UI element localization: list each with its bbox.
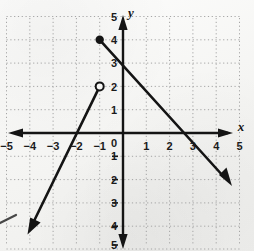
y-tick--3: 3 (111, 197, 117, 209)
y-tick--1: 1 (111, 150, 117, 162)
x-tick-3: 3 (190, 140, 196, 152)
closed-endpoint-marker (96, 36, 104, 44)
y-tick--5: 5 (111, 239, 117, 251)
stray-pencil-mark (0, 215, 16, 223)
x-axis-left-arrow-icon (8, 128, 23, 137)
ray-right-segment (100, 40, 224, 177)
y-axis-label: y (126, 5, 134, 20)
y-axis-up-arrow-icon (118, 15, 127, 30)
y-tick-1: 1 (111, 104, 117, 116)
y-tick-4: 4 (111, 34, 118, 46)
y-tick--4: 4 (111, 220, 118, 232)
ray-left-segment (35, 86, 100, 220)
coordinate-plane: −5 −4 −3 −2 −1 1 2 3 4 5 0 1 2 3 4 5 1 2… (0, 0, 254, 251)
x-tick--1: −1 (93, 140, 106, 152)
x-tick-2: 2 (167, 140, 173, 152)
x-tick-5: 5 (236, 140, 242, 152)
x-tick-labels: −5 −4 −3 −2 −1 1 2 3 4 5 (0, 140, 242, 152)
series-ray-right-decreasing (100, 40, 232, 186)
y-tick-5: 5 (111, 11, 117, 23)
y-tick-2: 2 (111, 81, 117, 93)
x-tick-1: 1 (143, 140, 149, 152)
x-tick--5: −5 (0, 140, 13, 152)
y-axis-down-arrow-icon (118, 234, 127, 249)
x-tick--4: −4 (24, 140, 37, 152)
x-tick--2: −2 (70, 140, 83, 152)
x-tick-4: 4 (213, 140, 220, 152)
x-axis-right-arrow-icon (218, 128, 233, 137)
y-tick-labels-positive: 1 2 3 4 5 (111, 11, 118, 116)
open-endpoint-marker (96, 82, 104, 90)
y-tick-labels-negative: 1 2 3 4 5 (111, 150, 118, 251)
y-tick-3: 3 (111, 57, 117, 69)
graph-screenshot: −5 −4 −3 −2 −1 1 2 3 4 5 0 1 2 3 4 5 1 2… (0, 0, 254, 251)
y-tick--2: 2 (111, 174, 117, 186)
series-ray-left-increasing (28, 86, 100, 234)
x-axis-label: x (237, 119, 245, 134)
x-tick--3: −3 (47, 140, 60, 152)
origin-label: 0 (111, 137, 117, 149)
ray-right-arrow-icon (219, 168, 232, 187)
